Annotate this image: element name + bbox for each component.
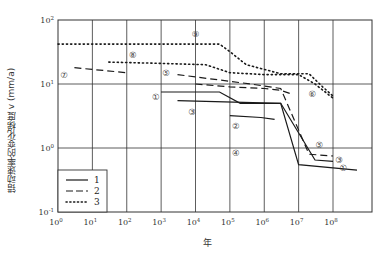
series-line-dashed bbox=[74, 68, 126, 73]
legend-label: 2 bbox=[94, 186, 100, 196]
x-tick-label: 100 bbox=[49, 217, 63, 228]
curve-label: ⑤ bbox=[162, 68, 170, 78]
series-line-dashed bbox=[178, 75, 334, 156]
series-line-solid bbox=[178, 101, 334, 162]
x-axis-ticks: 100101102103104105106107108 bbox=[49, 217, 338, 228]
curve-label: ① bbox=[152, 92, 160, 102]
legend-label: 3 bbox=[94, 197, 100, 207]
x-tick-label: 104 bbox=[187, 217, 201, 228]
curve-label: ③ bbox=[188, 107, 196, 117]
curve-label: ⑨ bbox=[192, 29, 200, 39]
y-tick-label: 10-1 bbox=[38, 207, 54, 218]
x-tick-label: 106 bbox=[255, 217, 269, 228]
curve-label: ⑤ bbox=[316, 140, 324, 150]
chart-canvas: ①③②⑤⑥⑦⑧⑨④⑤③① 100101102103104105106107108… bbox=[0, 0, 386, 254]
y-tick-label: 101 bbox=[40, 79, 54, 90]
curve-label: ④ bbox=[232, 148, 240, 158]
curve-label: ② bbox=[232, 121, 240, 131]
curve-label: ⑦ bbox=[60, 70, 68, 80]
x-tick-label: 103 bbox=[152, 217, 166, 228]
series-line-solid bbox=[230, 116, 275, 120]
x-tick-label: 108 bbox=[324, 217, 338, 228]
x-axis-label: 年 bbox=[203, 236, 212, 249]
curve-label: ⑥ bbox=[308, 89, 316, 99]
y-axis-ticks: 10210110010-1 bbox=[38, 15, 54, 218]
y-tick-label: 102 bbox=[40, 15, 54, 26]
x-tick-label: 105 bbox=[221, 217, 235, 228]
y-tick-label: 100 bbox=[40, 143, 54, 154]
x-tick-label: 107 bbox=[290, 217, 304, 228]
curve-label: ① bbox=[340, 163, 348, 173]
x-tick-label: 101 bbox=[84, 217, 98, 228]
y-axis-label: 错动速率的变化梯度 v (mm/a) bbox=[4, 40, 18, 220]
series-line-solid bbox=[161, 92, 357, 170]
legend-label: 1 bbox=[94, 175, 100, 185]
curve-label: ⑧ bbox=[129, 50, 137, 60]
x-tick-label: 102 bbox=[118, 217, 132, 228]
data-series bbox=[58, 44, 357, 170]
legend: 123 bbox=[58, 170, 107, 212]
